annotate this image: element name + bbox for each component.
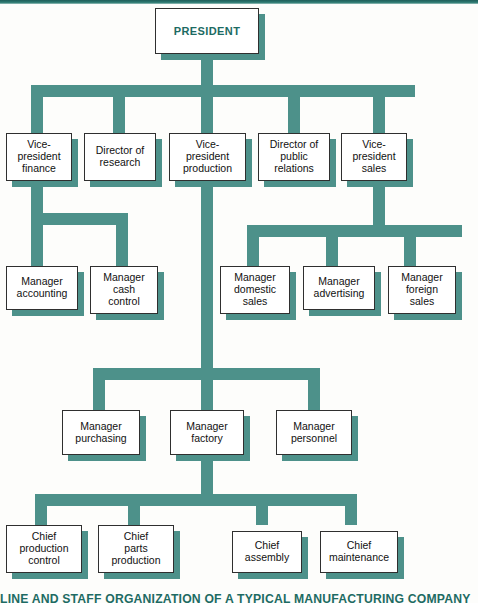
node-manager-domestic-sales[interactable]: Manager domestic sales (220, 266, 290, 314)
node-text: Chief maintenance (329, 540, 389, 564)
node-label-vp-sales: Vice- president sales (341, 133, 407, 181)
connector-drop-chief-production-control (35, 494, 47, 525)
node-chief-production-control[interactable]: Chief production control (6, 525, 82, 573)
connector-drop-vp-production (201, 85, 213, 133)
node-label-manager-foreign-sales: Manager foreign sales (388, 266, 456, 314)
node-text: Director of public relations (270, 139, 318, 174)
node-text-line: cash (113, 283, 135, 295)
node-chief-assembly[interactable]: Chief assembly (232, 531, 302, 573)
node-label-manager-cash-control: Manager cash control (90, 266, 158, 314)
connector-production-stem (201, 183, 213, 380)
node-text-line: assembly (245, 551, 289, 563)
node-manager-cash-control[interactable]: Manager cash control (90, 266, 158, 314)
node-text-line: Vice- (27, 138, 51, 150)
node-text-line: sales (243, 295, 268, 307)
node-director-research[interactable]: Director of research (84, 133, 156, 181)
connector-drop-dir-public-relations (288, 85, 300, 133)
top-rule-divider (0, 0, 478, 4)
node-label-manager-domestic-sales: Manager domestic sales (220, 266, 290, 314)
node-label-vp-production: Vice- president production (169, 133, 246, 181)
node-text: Manager factory (186, 421, 227, 445)
node-label-manager-advertising: Manager advertising (303, 266, 375, 310)
node-text: Vice- president sales (352, 139, 395, 174)
node-text: Manager accounting (17, 276, 68, 300)
node-text-line: Vice- (362, 138, 386, 150)
node-text-line: sales (410, 295, 435, 307)
node-manager-purchasing[interactable]: Manager purchasing (62, 410, 140, 455)
node-text-line: Vice- (196, 138, 220, 150)
node-text-line: Manager (103, 271, 144, 283)
node-text: Chief production control (19, 531, 68, 566)
node-text-line: foreign (406, 283, 438, 295)
figure-caption: LINE AND STAFF ORGANIZATION OF A TYPICAL… (0, 592, 478, 603)
connector-drop-vp-sales (373, 85, 385, 133)
node-label-manager-factory: Manager factory (170, 410, 244, 455)
node-text-line: production (183, 162, 232, 174)
node-label-manager-accounting: Manager accounting (6, 266, 78, 310)
node-text-line: advertising (314, 287, 365, 299)
node-text-line: control (28, 554, 60, 566)
node-vp-finance[interactable]: Vice- president finance (6, 133, 72, 181)
node-text-line: Chief (124, 530, 149, 542)
connector-drop-dir-research (113, 85, 125, 133)
node-director-public-relations[interactable]: Director of public relations (258, 133, 330, 181)
node-text-line: domestic (234, 283, 276, 295)
node-text: Manager cash control (103, 272, 144, 307)
node-label-president: PRESIDENT (155, 8, 259, 54)
node-label-chief-production-control: Chief production control (6, 525, 82, 573)
connector-drop-mgr-factory (201, 368, 213, 410)
node-label-manager-purchasing: Manager purchasing (62, 410, 140, 455)
node-text-line: maintenance (329, 551, 389, 563)
node-text-line: Manager (401, 271, 442, 283)
node-text-line: Chief (255, 539, 280, 551)
node-text-line: parts (124, 542, 147, 554)
node-text: Vice- president production (183, 139, 232, 174)
node-text-line: purchasing (75, 432, 126, 444)
connector-drop-chief-assembly (256, 494, 268, 525)
node-vp-sales[interactable]: Vice- president sales (341, 133, 407, 181)
node-text-line: relations (274, 162, 314, 174)
node-text-line: Director of (270, 138, 318, 150)
connector-drop-mgr-accounting (31, 213, 43, 266)
node-manager-foreign-sales[interactable]: Manager foreign sales (388, 266, 456, 314)
node-text-line: Manager (21, 275, 62, 287)
node-text-line: Manager (186, 420, 227, 432)
node-president[interactable]: PRESIDENT (155, 8, 259, 54)
node-text-line: personnel (291, 432, 337, 444)
org-chart-figure: PRESIDENT Vice- president finance Direct… (0, 0, 478, 603)
node-text-line: Manager (293, 420, 334, 432)
node-text-line: accounting (17, 287, 68, 299)
node-manager-advertising[interactable]: Manager advertising (303, 266, 375, 310)
node-text: Manager foreign sales (401, 272, 442, 307)
node-text: Chief assembly (245, 540, 289, 564)
node-text-line: president (17, 150, 60, 162)
node-text-line: president (186, 150, 229, 162)
node-manager-factory[interactable]: Manager factory (170, 410, 244, 455)
node-label-chief-assembly: Chief assembly (232, 531, 302, 573)
node-text-line: production (111, 554, 160, 566)
connector-drop-chief-maintenance (345, 494, 357, 525)
node-chief-parts-production[interactable]: Chief parts production (98, 525, 174, 573)
node-text: Director of research (96, 145, 144, 169)
node-text: Manager advertising (314, 276, 365, 300)
node-text-line: Manager (80, 420, 121, 432)
node-text-line: Chief (347, 539, 372, 551)
connector-sales-stem (373, 183, 385, 225)
node-text-line: Manager (234, 271, 275, 283)
connector-sales-bus (247, 225, 462, 237)
connector-finance-bus (31, 213, 128, 225)
node-text-line: sales (362, 162, 387, 174)
connector-drop-mgr-advertising (326, 225, 338, 266)
node-manager-personnel[interactable]: Manager personnel (276, 410, 352, 455)
connector-drop-mgr-purchasing (93, 368, 105, 410)
node-label-vp-finance: Vice- president finance (6, 133, 72, 181)
connector-drop-vp-finance (31, 85, 43, 133)
node-text-line: production (19, 542, 68, 554)
node-text: Chief parts production (111, 531, 160, 566)
node-label-manager-personnel: Manager personnel (276, 410, 352, 455)
connector-drop-mgr-cash-control (116, 213, 128, 266)
connector-level4-bus (35, 494, 357, 506)
node-chief-maintenance[interactable]: Chief maintenance (320, 531, 398, 573)
node-vp-production[interactable]: Vice- president production (169, 133, 246, 181)
node-manager-accounting[interactable]: Manager accounting (6, 266, 78, 310)
